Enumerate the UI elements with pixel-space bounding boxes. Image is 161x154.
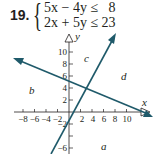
region-label-b: b <box>29 84 35 96</box>
x-tick-label: 4 <box>91 114 96 124</box>
x-tick-label: −4 <box>41 114 51 124</box>
inequality-graph: −8 −6 −4 −2 2 4 6 8 10 10 8 6 4 2 −2 −6 … <box>0 0 161 154</box>
x-tick-label: −6 <box>30 114 40 124</box>
y-tick-label: 8 <box>63 59 68 69</box>
x-axis-label: x <box>141 96 147 108</box>
region-label-c: c <box>84 52 89 64</box>
y-axis-label: y <box>74 30 80 42</box>
y-axis-arrow-icon <box>65 34 73 42</box>
arrowhead-icon <box>108 33 116 44</box>
region-label-d: d <box>121 70 127 82</box>
x-tick-label: 2 <box>80 114 85 124</box>
arrowhead-icon <box>13 58 24 65</box>
line-2x-5y-23 <box>18 60 148 114</box>
x-tick-label: 8 <box>113 114 118 124</box>
region-label-a: a <box>101 140 107 152</box>
y-tick-label: 4 <box>63 83 68 93</box>
x-tick-label: −8 <box>18 114 28 124</box>
y-tick-label: 2 <box>63 95 68 105</box>
y-tick-label: −6 <box>57 143 67 153</box>
x-tick-label: 6 <box>102 114 107 124</box>
x-tick-label: 10 <box>123 114 133 124</box>
y-tick-label: 10 <box>58 47 68 57</box>
